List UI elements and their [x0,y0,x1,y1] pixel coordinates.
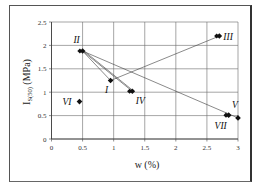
y-tick-label: 0.5 [38,112,47,120]
y-tick-label: 1 [43,89,47,97]
x-tick-label: 2.5 [203,144,212,152]
y-tick-label: 1.5 [38,65,47,73]
y-tick-label: 2.5 [38,19,47,27]
y-tick-label: 2 [43,42,47,50]
segment-II-I [83,51,111,80]
y-axis-label-unit: (MPa) [21,59,33,87]
connecting-lines [83,36,238,118]
data-point-V [235,115,241,121]
x-tick-label: 1 [112,144,116,152]
y-axis-label: IS(50) (MPa) [21,59,34,105]
x-tick-label: 1.5 [140,144,149,152]
y-tick-label: 0 [43,136,47,144]
scatter-chart: 00.511.522.53 00.511.522.5 IIIIIIIVVVIVI… [0,0,261,191]
point-label-III: III [222,32,233,42]
point-label-I: I [104,85,109,95]
x-tick-label: 0 [50,144,54,152]
x-tick-label: 3 [236,144,240,152]
point-labels: IIIIIIIVVVIVII [63,32,240,131]
x-tick-label: 0.5 [78,144,87,152]
x-tick-label: 2 [174,144,178,152]
segment-I-III [111,36,220,80]
point-label-VII: VII [215,121,228,131]
point-label-II: II [72,35,80,45]
segment-II-IV-double [84,51,134,91]
data-points [77,33,241,121]
data-point-VI [77,99,83,105]
point-label-IV: IV [135,96,146,106]
x-axis-ticks: 00.511.522.53 [50,139,241,152]
y-axis-ticks: 00.511.522.5 [38,19,52,144]
y-axis-label-sub: S(50) [26,87,34,101]
point-label-VI: VI [63,97,73,107]
x-axis-label: w (%) [135,159,160,171]
